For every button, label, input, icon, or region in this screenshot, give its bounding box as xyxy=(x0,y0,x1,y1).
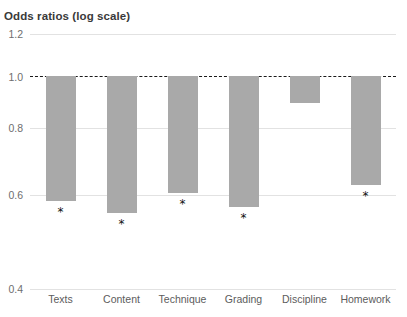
bar-discipline[interactable] xyxy=(290,76,320,103)
y-axis-tick-label: 1.2 xyxy=(8,28,23,40)
x-axis-label-texts: Texts xyxy=(48,293,73,305)
x-axis-label-content: Content xyxy=(103,293,140,305)
x-axis-label-technique: Technique xyxy=(159,293,207,305)
significance-star-homework: * xyxy=(363,192,369,200)
gridline-0.4: 0.4 xyxy=(30,289,396,290)
bar-slot: * xyxy=(152,34,213,289)
bar-content[interactable] xyxy=(107,76,137,213)
x-axis-label-homework: Homework xyxy=(340,293,390,305)
significance-star-content: * xyxy=(119,220,125,228)
significance-star-grading: * xyxy=(241,214,247,222)
bar-slot: * xyxy=(91,34,152,289)
significance-star-texts: * xyxy=(58,208,64,216)
bar-grading[interactable] xyxy=(229,76,259,206)
chart-title: Odds ratios (log scale) xyxy=(4,10,130,22)
significance-star-technique: * xyxy=(180,200,186,208)
bar-slot: * xyxy=(335,34,396,289)
y-axis-tick-label: 0.8 xyxy=(8,122,23,134)
bar-texts[interactable] xyxy=(46,76,76,200)
bar-technique[interactable] xyxy=(168,76,198,193)
y-axis-tick-label: 1.0 xyxy=(8,71,23,83)
bar-slot: * xyxy=(213,34,274,289)
plot-area: 1.21.00.80.60.4 ***** TextsContentTechni… xyxy=(30,34,396,289)
x-axis-label-discipline: Discipline xyxy=(282,293,327,305)
y-axis-tick-label: 0.4 xyxy=(8,283,23,295)
bar-slot: * xyxy=(30,34,91,289)
bar-slot xyxy=(274,34,335,289)
y-axis-tick-label: 0.6 xyxy=(8,189,23,201)
odds-ratio-bar-chart: Odds ratios (log scale) 1.21.00.80.60.4 … xyxy=(0,0,407,317)
bar-homework[interactable] xyxy=(351,76,381,185)
x-axis-label-grading: Grading xyxy=(225,293,262,305)
